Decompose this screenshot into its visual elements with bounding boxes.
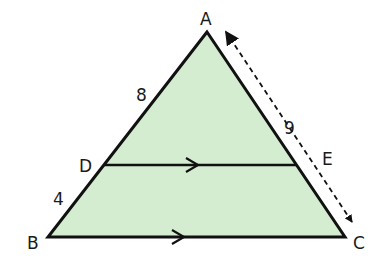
triangle-abc bbox=[48, 32, 345, 237]
vertex-label-c: C bbox=[353, 233, 365, 253]
length-ad: 8 bbox=[136, 85, 147, 105]
vertex-label-d: D bbox=[79, 156, 92, 176]
triangle-diagram: A B C D E 8 4 9 bbox=[0, 0, 377, 269]
vertex-label-e: E bbox=[322, 149, 333, 169]
length-db: 4 bbox=[53, 189, 64, 209]
diagram-canvas: A B C D E 8 4 9 bbox=[0, 0, 377, 269]
vertex-label-a: A bbox=[200, 9, 212, 29]
vertex-label-b: B bbox=[27, 233, 39, 253]
length-ae: 9 bbox=[284, 118, 295, 138]
